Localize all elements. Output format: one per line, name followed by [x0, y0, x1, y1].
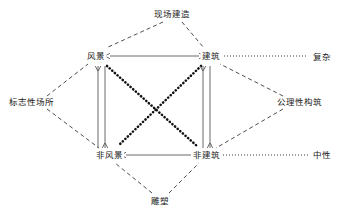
vertex-label-axiomatic-structure: 公理性构筑 — [275, 97, 323, 108]
dashed-diamond-edges — [47, 22, 283, 193]
diagram-canvas — [0, 0, 344, 215]
axis-label-complex: 复杂 — [312, 52, 333, 63]
vertex-label-on-site-construction: 现场建造 — [153, 9, 192, 20]
axis-label-neutral: 中性 — [312, 150, 333, 161]
edge-axiomatic-to-nonarch — [216, 109, 283, 148]
vertex-label-landmark-place: 标志性场所 — [7, 97, 55, 108]
vertical-arrow-pair-left — [98, 66, 105, 148]
node-label-non-landscape: 非风景 — [94, 150, 124, 161]
edge-sculpture-to-nonarch — [169, 163, 199, 193]
diagonal-architecture-to-nonlandscape — [118, 66, 201, 146]
node-label-non-architecture: 非建筑 — [191, 150, 221, 161]
node-label-architecture: 建筑 — [201, 51, 222, 62]
edge-landmark-to-landscape — [47, 64, 88, 96]
dotted-diagonal-edges — [107, 66, 201, 146]
node-label-landscape: 风景 — [86, 51, 107, 62]
diagonal-landscape-to-nonarch — [107, 66, 197, 146]
edge-onsite-to-architecture — [182, 22, 204, 48]
semiotic-square-diagram: 风景 建筑 非风景 非建筑 现场建造 标志性场所 公理性构筑 雕塑 复杂 中性 — [0, 0, 344, 215]
edge-landmark-to-nonlandscape — [47, 109, 99, 148]
edge-sculpture-to-nonlandscape — [115, 163, 152, 193]
edge-onsite-to-landscape — [106, 22, 163, 48]
vertical-arrow-pair-right — [203, 66, 210, 148]
edge-axiomatic-to-architecture — [220, 64, 283, 96]
vertex-label-sculpture: 雕塑 — [150, 196, 171, 207]
